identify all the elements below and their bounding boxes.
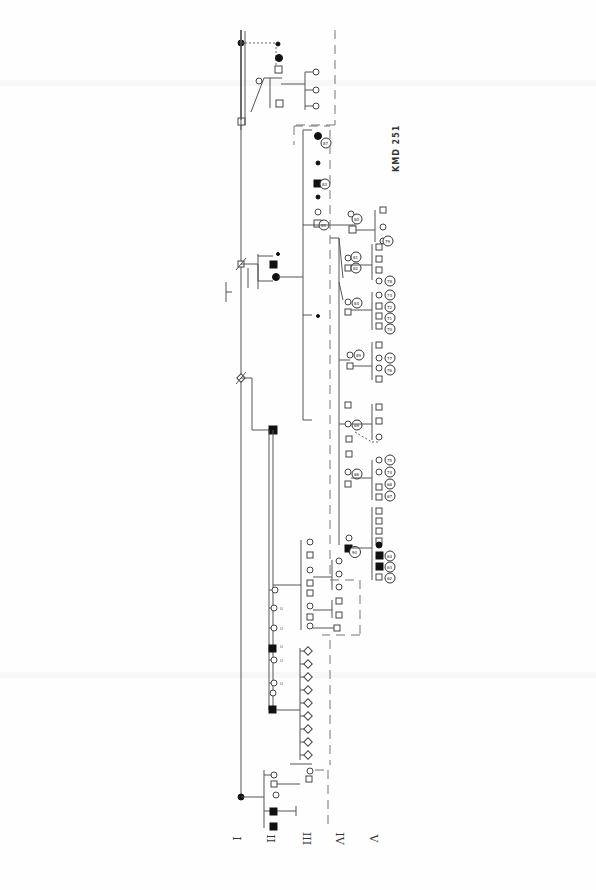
female-icon [273,792,279,798]
generation-2-top [241,30,319,125]
female-icon [271,772,277,778]
svg-text:74: 74 [387,470,393,475]
svg-text:67: 67 [387,494,393,499]
svg-text:78: 78 [387,279,393,284]
chart-id-label: KMD 251 [392,125,401,172]
svg-text:87: 87 [323,141,329,146]
dashed-boundaries [295,30,360,830]
generation-2-main: U U U U U [241,378,283,713]
svg-text:77: 77 [387,356,393,361]
svg-text:73: 73 [387,293,393,298]
pedigree-diagram: U U U U U [0,0,596,890]
generation-4-middle: 69 86 75 74 68 [339,402,395,501]
generation-label: II [264,834,277,843]
generation-4-right: 81 82 78 84 73 72 [330,238,395,545]
svg-text:83: 83 [322,182,328,187]
svg-text:70: 70 [387,327,393,332]
generation-label: III [300,832,313,845]
svg-text:64: 64 [387,554,393,559]
svg-text:80: 80 [354,217,360,222]
affected-male-icon [270,808,277,815]
affected-female-icon [276,55,283,62]
svg-text:90: 90 [352,550,358,555]
generation-2-left [241,770,300,830]
svg-text:82: 82 [353,266,359,271]
svg-text:89: 89 [356,353,362,358]
generation-label: IV [333,832,346,844]
generation-3-right: 87 83 85 80 79 [294,126,393,246]
pedigree-page: U U U U U [0,0,596,890]
affected-male-icon [269,645,276,652]
generation-label: V [367,835,380,843]
generation-3-diamonds [276,647,313,782]
male-icon [271,781,277,787]
svg-text:84: 84 [354,301,360,306]
affected-male-icon [270,823,277,830]
svg-text:79: 79 [385,239,391,244]
generation-3-middle [273,539,342,631]
svg-text:72: 72 [387,305,393,310]
svg-text:62: 62 [387,576,393,581]
svg-text:86: 86 [354,472,360,477]
generation-label: I [230,836,243,840]
svg-text:75: 75 [387,458,393,463]
svg-text:U: U [280,658,283,663]
svg-text:68: 68 [387,482,393,487]
generation-4-lower: 90 64 63 62 [345,507,395,583]
affected-male-icon [270,261,277,268]
svg-text:U: U [280,681,283,686]
svg-text:U: U [280,626,283,631]
svg-text:U: U [280,644,283,649]
affected-male-icon [269,706,276,713]
female-icon [270,690,276,696]
svg-text:76: 76 [387,368,393,373]
generation-1 [236,30,246,800]
svg-text:71: 71 [387,316,393,321]
svg-text:81: 81 [353,255,359,260]
svg-text:U: U [280,606,283,611]
svg-text:63: 63 [387,565,393,570]
